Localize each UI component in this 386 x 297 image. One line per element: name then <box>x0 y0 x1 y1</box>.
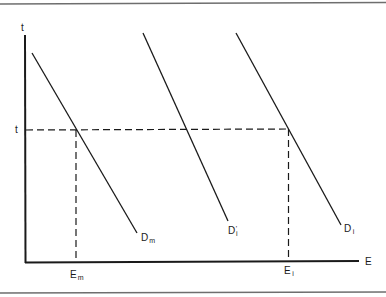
curve-dm <box>32 53 137 233</box>
em-label: Em <box>70 269 84 281</box>
dm-label: Dm <box>141 232 155 244</box>
bottom-border <box>0 292 386 293</box>
top-border <box>0 3 386 5</box>
x-axis <box>25 261 359 263</box>
curve-d-prime-i <box>143 33 228 221</box>
d-prime-i-label: D'i <box>228 225 238 237</box>
t-level-label: t <box>15 124 18 135</box>
diagram-canvas: t E t Em Ei Dm D'i Di <box>0 0 386 297</box>
ei-label: Ei <box>284 265 294 277</box>
y-axis <box>25 35 26 263</box>
y-axis-label: t <box>21 22 24 33</box>
t-level-dashed-line <box>26 129 289 130</box>
x-axis-label: E <box>365 256 372 267</box>
di-label: Di <box>344 223 355 235</box>
